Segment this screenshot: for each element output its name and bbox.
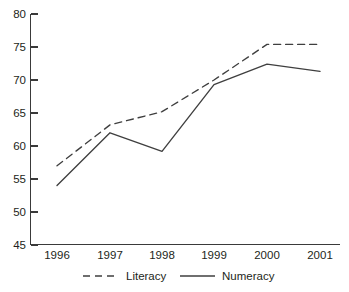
y-tick-label-50: 50 (13, 206, 26, 218)
y-tick-label-60: 60 (13, 140, 26, 152)
legend-label-literacy: Literacy (126, 270, 167, 282)
y-tick-label-45: 45 (13, 239, 26, 251)
x-tick-label-1998: 1998 (149, 249, 175, 261)
y-tick-label-65: 65 (13, 107, 26, 119)
x-tick-label-2001: 2001 (307, 249, 333, 261)
chart-canvas: 80 75 70 65 60 55 50 45 1996 1997 1998 1… (0, 0, 349, 292)
x-tick-label-2000: 2000 (254, 249, 280, 261)
x-tick-label-1999: 1999 (201, 249, 227, 261)
x-tick-label-1997: 1997 (97, 249, 123, 261)
y-tick-label-55: 55 (13, 173, 26, 185)
legend-label-numeracy: Numeracy (222, 270, 275, 282)
y-tick-label-75: 75 (13, 41, 26, 53)
legend: Literacy Numeracy (83, 270, 275, 282)
series-line-literacy (57, 44, 320, 165)
y-tick-label-70: 70 (13, 74, 26, 86)
series-line-numeracy (57, 64, 320, 185)
line-chart: 80 75 70 65 60 55 50 45 1996 1997 1998 1… (0, 0, 349, 292)
y-tick-label-80: 80 (13, 8, 26, 20)
x-tick-label-1996: 1996 (44, 249, 70, 261)
